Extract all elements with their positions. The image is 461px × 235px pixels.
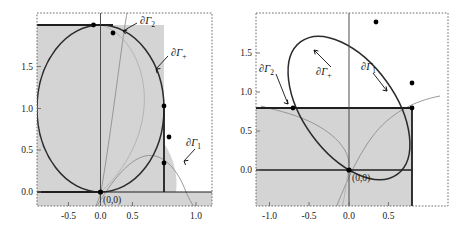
left-ytick-3: 1.5 <box>21 62 33 72</box>
point-origin <box>346 167 351 172</box>
right-panel-plot: 0.0 0.5 1.0 1.5 -1.0 -0.5 0.0 0.5 ∂Γ2 ∂Γ… <box>230 0 461 235</box>
right-xtick-3: 0.5 <box>383 211 395 221</box>
arrow-dgamma1 <box>184 149 195 161</box>
left-label-dgamma1: ∂Γ1 <box>186 137 201 151</box>
point-a <box>91 23 96 28</box>
right-ytick-1: 0.5 <box>240 126 252 136</box>
point-a <box>374 20 379 25</box>
right-xtick-0: -1.0 <box>262 211 277 221</box>
right-label-dgammaplus: ∂Γ+ <box>316 66 331 80</box>
right-annotation-arrows <box>276 50 387 104</box>
left-ytick-2: 1.0 <box>21 104 33 114</box>
right-panel: 0.0 0.5 1.0 1.5 -1.0 -0.5 0.0 0.5 ∂Γ2 ∂Γ… <box>230 0 461 235</box>
figure-container: 0.0 0.5 1.0 1.5 -0.5 0.0 0.5 1.0 ∂Γ2 ∂Γ+… <box>0 0 461 235</box>
right-ytick-3: 1.5 <box>240 48 252 58</box>
left-ytick-0: 0.0 <box>21 187 33 197</box>
left-panel: 0.0 0.5 1.0 1.5 -0.5 0.0 0.5 1.0 ∂Γ2 ∂Γ+… <box>0 0 231 235</box>
left-origin-label: (0,0) <box>103 195 121 206</box>
arrow-dgamma1 <box>373 73 387 91</box>
point-c <box>162 104 167 109</box>
right-ytick-2: 1.0 <box>240 87 252 97</box>
point-origin <box>98 189 103 194</box>
left-xtick-0: -0.5 <box>61 211 76 221</box>
arrowhead-dgamma2 <box>284 100 288 104</box>
arrow-dgamma2 <box>276 74 288 104</box>
right-ytick-0: 0.0 <box>240 165 252 175</box>
left-xtick-1: 0.0 <box>95 211 107 221</box>
right-shaded-region <box>256 108 412 206</box>
point-b <box>410 81 415 86</box>
right-label-dgamma2: ∂Γ2 <box>259 63 274 77</box>
point-b <box>111 31 116 36</box>
right-xtick-2: 0.0 <box>343 211 355 221</box>
left-panel-plot: 0.0 0.5 1.0 1.5 -0.5 0.0 0.5 1.0 ∂Γ2 ∂Γ+… <box>0 0 231 235</box>
right-label-dgamma1: ∂Γ1 <box>361 61 376 75</box>
point-c <box>410 106 415 111</box>
arrowhead-dgamma1 <box>184 160 188 165</box>
left-xtick-3: 1.0 <box>190 211 202 221</box>
left-ytick-1: 0.5 <box>21 145 33 155</box>
point-d <box>167 135 172 140</box>
right-xtick-1: -0.5 <box>301 211 316 221</box>
left-label-dgammaplus: ∂Γ+ <box>171 47 186 61</box>
point-d <box>291 106 296 111</box>
left-xtick-2: 0.5 <box>127 211 139 221</box>
right-origin-label: (0,0) <box>352 173 370 184</box>
point-e <box>162 161 167 166</box>
arrow-dgammaplus <box>314 50 331 67</box>
